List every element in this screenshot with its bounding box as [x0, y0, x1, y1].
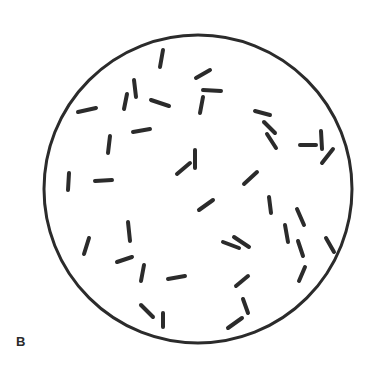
bacillus-rod	[78, 108, 96, 112]
bacillus-rod	[269, 197, 271, 213]
bacillus-rod	[117, 257, 132, 262]
bacillus-rod	[160, 50, 163, 67]
bacillus-rod	[297, 209, 304, 225]
bacillus-rod	[151, 100, 169, 106]
bacillus-rod	[267, 134, 276, 148]
bacillus-rod	[322, 149, 333, 163]
bacillus-rod	[299, 267, 305, 281]
bacillus-rod	[243, 299, 248, 313]
bacillus-rod	[141, 265, 144, 281]
bacillus-rod	[203, 90, 221, 91]
bacillus-rod	[321, 131, 322, 149]
bacillus-rod	[128, 222, 130, 241]
bacillus-rod	[223, 242, 239, 248]
bacillus-rod	[177, 163, 190, 174]
bacillus-rod	[244, 172, 257, 184]
bacillus-rod	[196, 70, 210, 78]
bacillus-rod	[84, 238, 89, 254]
bacillus-rod	[108, 136, 110, 153]
bacillus-rod	[95, 180, 112, 181]
panel-label: B	[16, 335, 25, 348]
microscope-field-figure: B	[0, 0, 371, 371]
bacillus-rod	[236, 276, 248, 286]
bacillus-rod	[168, 276, 185, 279]
bacillus-rod	[200, 97, 203, 113]
bacillus-rod	[199, 200, 213, 210]
bacillus-rod	[228, 318, 242, 328]
field-of-view-drawing	[0, 0, 371, 371]
bacillus-rod	[124, 94, 127, 109]
bacillus-rod	[255, 111, 270, 115]
bacillus-rod	[141, 305, 153, 317]
bacillus-rod	[133, 129, 150, 132]
bacilli-group	[68, 50, 334, 328]
bacillus-rod	[68, 173, 69, 190]
bacillus-rod	[298, 241, 303, 256]
bacillus-rod	[285, 225, 288, 242]
bacillus-rod	[134, 80, 136, 97]
bacillus-rod	[326, 238, 334, 252]
field-of-view-circle	[44, 35, 352, 343]
bacillus-rod	[264, 122, 275, 133]
